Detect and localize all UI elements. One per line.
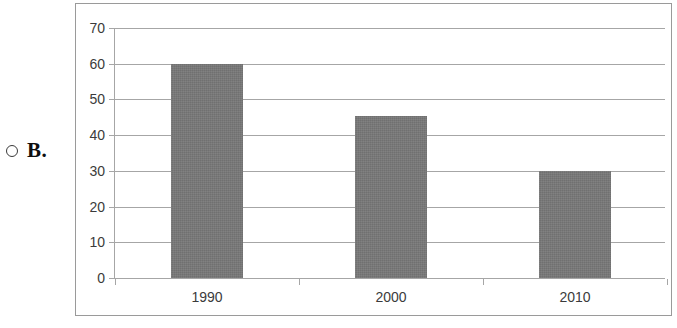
x-axis-tick: [483, 279, 484, 285]
bar: [171, 64, 243, 278]
y-axis-tick: [109, 171, 115, 172]
x-axis-label: 2000: [331, 290, 451, 304]
gridline: [114, 278, 665, 279]
radio-unselected-icon[interactable]: [6, 145, 18, 157]
y-axis-label: 70: [75, 21, 105, 35]
y-axis-tick: [109, 207, 115, 208]
y-axis-tick: [109, 135, 115, 136]
y-axis-label: 0: [75, 271, 105, 285]
bar: [355, 116, 427, 279]
y-axis-label: 60: [75, 57, 105, 71]
y-axis-tick: [109, 28, 115, 29]
x-axis-tick: [667, 279, 668, 285]
x-axis-label: 1990: [147, 290, 267, 304]
y-axis-tick: [109, 242, 115, 243]
y-axis-label: 50: [75, 92, 105, 106]
x-axis-label: 2010: [515, 290, 635, 304]
x-axis-tick: [115, 279, 116, 285]
y-axis-tick: [109, 64, 115, 65]
y-axis-tick: [109, 99, 115, 100]
bar-chart-plot-area: 010203040506070 199020002010: [76, 4, 671, 315]
y-axis-label: 30: [75, 164, 105, 178]
gridline: [114, 28, 665, 29]
answer-choice-label: B.: [27, 140, 47, 161]
bar: [539, 171, 611, 278]
answer-choice-b[interactable]: B.: [6, 140, 47, 161]
y-axis-label: 40: [75, 128, 105, 142]
y-axis-label: 20: [75, 200, 105, 214]
x-axis-tick: [299, 279, 300, 285]
y-axis-label: 10: [75, 235, 105, 249]
chart-frame: 010203040506070 199020002010: [75, 3, 672, 316]
